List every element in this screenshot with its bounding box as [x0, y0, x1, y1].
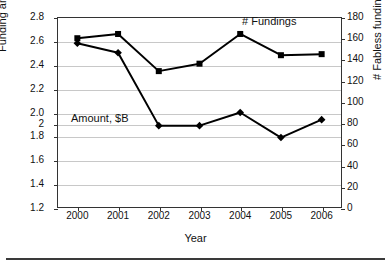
- y-tick-label-right: 40: [347, 161, 387, 171]
- fundings-marker: [115, 31, 121, 37]
- annotation-amount: Amount, $B: [71, 112, 128, 124]
- series-layer: [0, 0, 391, 266]
- amount-marker: [318, 116, 326, 124]
- y-tick-label-right: 120: [347, 76, 387, 86]
- y-tick-label-left: 1.8: [4, 131, 44, 141]
- fundings-marker: [156, 68, 162, 74]
- y-tick-label-right: 100: [347, 97, 387, 107]
- fundings-marker: [237, 31, 243, 37]
- figure: Funding amount, $B # Fabless funding 200…: [0, 0, 391, 266]
- y-tick-label-right: 140: [347, 54, 387, 64]
- y-tick-label-left: 1.4: [4, 179, 44, 189]
- annotation-fundings: # Fundings: [242, 15, 296, 27]
- y-tick-label-left: 2.0: [4, 108, 44, 118]
- y-tick-label-left: 2.4: [4, 60, 44, 70]
- y-tick-label-left: 2: [4, 119, 44, 129]
- series-fundings-line: [74, 31, 324, 74]
- y-tick-label-right: 0: [347, 203, 387, 213]
- amount-marker: [196, 122, 204, 130]
- y-tick-label-left: 2.6: [4, 36, 44, 46]
- y-tick-label-left: 2.2: [4, 84, 44, 94]
- y-tick-label-left: 1.6: [4, 155, 44, 165]
- amount-marker: [114, 49, 122, 57]
- fundings-marker: [197, 61, 203, 67]
- y-tick-label-right: 180: [347, 12, 387, 22]
- y-tick-label-left: 2.8: [4, 12, 44, 22]
- y-tick-label-left: 1.2: [4, 203, 44, 213]
- y-tick-label-right: 160: [347, 33, 387, 43]
- footer-divider: [6, 258, 385, 260]
- fundings-marker: [278, 52, 284, 58]
- fundings-marker: [319, 51, 325, 57]
- y-tick-label-right: 60: [347, 139, 387, 149]
- amount-marker: [155, 122, 163, 130]
- y-tick-label-right: 20: [347, 182, 387, 192]
- y-tick-label-right: 80: [347, 118, 387, 128]
- x-axis-title: Year: [0, 232, 391, 244]
